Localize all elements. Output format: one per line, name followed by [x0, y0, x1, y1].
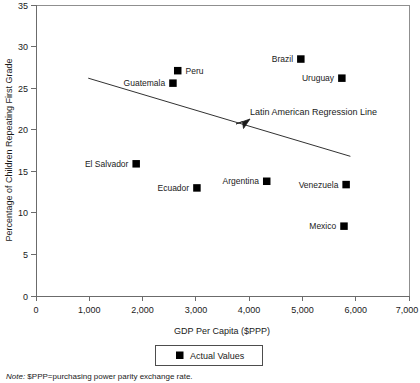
x-tick-label-1000: 1,000	[78, 305, 101, 315]
x-tick-label-5000: 5,000	[291, 305, 314, 315]
x-tick-label-4000: 4,000	[238, 305, 261, 315]
x-tick-label-7000: 7,000	[396, 305, 419, 315]
x-tick-label-0: 0	[33, 305, 38, 315]
x-axis-title: GDP Per Capita ($PPP)	[174, 326, 270, 336]
data-point-label: Venezuela	[299, 180, 339, 190]
data-point-label: Ecuador	[158, 183, 190, 193]
data-point: El Salvador	[85, 159, 140, 169]
data-point-label: Brazil	[272, 54, 293, 64]
footnote-line: Note: $PPP=purchasing power parity excha…	[6, 372, 193, 381]
regression-line-annotation: Latin American Regression Line	[250, 107, 377, 117]
data-point-marker	[263, 178, 271, 186]
x-axis: 0 1,000 2,000 3,000 4,000 5,000 6,000 7,…	[33, 296, 418, 336]
data-point-marker	[297, 55, 305, 63]
data-point: Brazil	[272, 54, 305, 64]
data-point: Argentina	[223, 176, 271, 186]
data-point: Ecuador	[158, 183, 201, 193]
y-tick-label-25: 25	[18, 84, 28, 94]
regression-line-group: Latin American Regression Line	[88, 78, 377, 156]
data-point-marker	[340, 222, 348, 230]
data-point: Peru	[174, 66, 204, 76]
data-point-marker	[193, 184, 201, 192]
legend-marker-icon	[176, 352, 184, 360]
footnote: Note: $PPP=purchasing power parity excha…	[6, 372, 193, 381]
data-point-label: Mexico	[309, 221, 336, 231]
y-tick-label-0: 0	[23, 292, 28, 302]
plot-frame	[36, 5, 409, 296]
data-point-marker	[174, 67, 182, 75]
y-tick-label-10: 10	[18, 208, 28, 218]
x-tick-label-3000: 3,000	[185, 305, 208, 315]
footnote-prefix: Note:	[6, 372, 25, 381]
latin-american-regression-line	[88, 78, 350, 156]
data-point-marker	[338, 74, 346, 82]
y-axis-title: Percentage of Children Repeating First G…	[4, 58, 14, 241]
legend-label-actual-values: Actual Values	[190, 351, 245, 361]
y-tick-label-15: 15	[18, 167, 28, 177]
y-tick-label-35: 35	[18, 1, 28, 11]
y-tick-label-5: 5	[23, 250, 28, 260]
footnote-body: $PPP=purchasing power parity exchange ra…	[25, 372, 192, 381]
y-axis: 35 30 25 20 15 10 5 0 Percentage of Chil…	[4, 1, 36, 302]
data-point-label: El Salvador	[85, 159, 129, 169]
data-point: Mexico	[309, 221, 347, 231]
x-tick-label-2000: 2,000	[131, 305, 154, 315]
y-tick-label-20: 20	[18, 125, 28, 135]
data-point-label: Guatemala	[124, 78, 166, 88]
scatter-plot: 35 30 25 20 15 10 5 0 Percentage of Chil…	[0, 0, 420, 383]
data-point-marker	[169, 79, 177, 87]
data-point: Uruguay	[302, 73, 346, 83]
legend: Actual Values	[155, 345, 262, 365]
y-tick-label-30: 30	[18, 42, 28, 52]
data-point: Venezuela	[299, 180, 350, 190]
data-point-marker	[132, 160, 140, 168]
data-point-label: Argentina	[223, 176, 260, 186]
data-point: Guatemala	[124, 78, 177, 88]
data-point-marker	[342, 181, 350, 189]
data-point-label: Uruguay	[302, 73, 335, 83]
x-tick-label-6000: 6,000	[344, 305, 367, 315]
figure-container: 35 30 25 20 15 10 5 0 Percentage of Chil…	[0, 0, 420, 383]
data-points-layer: PeruGuatemalaBrazilUruguayEl SalvadorEcu…	[85, 54, 350, 231]
annotation-arrow-icon	[236, 119, 250, 129]
data-point-label: Peru	[185, 66, 203, 76]
